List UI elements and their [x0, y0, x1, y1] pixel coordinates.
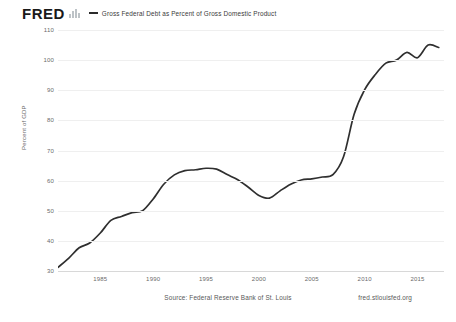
fred-chart-figure: FRED Gross Federal Debt as Percent of Gr… [0, 0, 456, 322]
legend-series-label: Gross Federal Debt as Percent of Gross D… [102, 10, 276, 17]
gridline [58, 241, 444, 242]
plot-area [58, 30, 444, 271]
y-tick-label: 80 [47, 117, 54, 123]
chart-legend: Gross Federal Debt as Percent of Gross D… [89, 10, 276, 17]
y-tick-label: 100 [43, 57, 54, 63]
x-tick-label: 2010 [358, 276, 372, 282]
fred-logo: FRED [22, 6, 65, 21]
y-axis-title: Percent of GDP [21, 105, 27, 150]
y-axis-tick-labels: 11010090807060504030 [34, 30, 54, 271]
x-axis-line [58, 271, 444, 272]
y-tick-label: 50 [47, 208, 54, 214]
y-tick-label: 90 [47, 87, 54, 93]
gridline [58, 30, 444, 31]
y-tick-label: 60 [47, 178, 54, 184]
y-tick-label: 110 [44, 27, 54, 33]
y-tick-label: 30 [47, 268, 54, 274]
gridline [58, 151, 444, 152]
gridline [58, 60, 444, 61]
gridline [58, 90, 444, 91]
x-tick-label: 1985 [93, 276, 107, 282]
x-tick-label: 2000 [252, 276, 266, 282]
gridline [58, 181, 444, 182]
x-axis-tick-labels: 1985199019952000200520102015 [58, 276, 444, 288]
y-tick-label: 40 [47, 238, 54, 244]
chart-header: FRED Gross Federal Debt as Percent of Gr… [0, 0, 456, 26]
bar-chart-icon [69, 8, 80, 18]
x-tick-label: 2015 [410, 276, 424, 282]
y-tick-label: 70 [47, 148, 54, 154]
x-tick-label: 1995 [199, 276, 213, 282]
x-tick-label: 1990 [146, 276, 160, 282]
gridlines [58, 30, 444, 271]
x-tick-label: 2005 [305, 276, 319, 282]
gridline [58, 120, 444, 121]
line-swatch-icon [89, 12, 98, 14]
fred-url-caption[interactable]: fred.stlouisfed.org [358, 294, 412, 301]
gridline [58, 211, 444, 212]
